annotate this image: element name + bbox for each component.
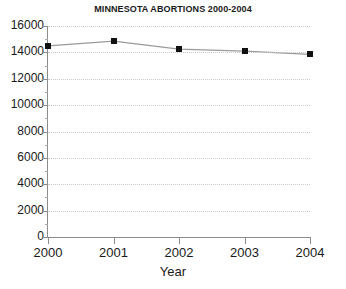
data-point-marker [242, 48, 248, 54]
gridline [48, 52, 310, 53]
gridline [48, 211, 310, 212]
y-axis-tick-label: 8000 [0, 124, 44, 138]
gridline [48, 26, 310, 27]
y-axis-minor-tick [45, 145, 48, 146]
x-axis-tick-label: 2000 [18, 245, 78, 260]
x-axis-tick [114, 238, 115, 244]
x-axis-tick-label: 2003 [215, 245, 275, 260]
y-axis-tick-labels: 0200040006000800010000120001400016000 [0, 26, 44, 237]
gridline [48, 79, 310, 80]
y-axis-tick [42, 79, 48, 80]
x-axis-tick-label: 2004 [280, 245, 340, 260]
gridline [48, 158, 310, 159]
plot-area [48, 26, 310, 237]
y-axis-tick [42, 132, 48, 133]
y-axis-minor-tick [45, 92, 48, 93]
x-axis-tick [245, 238, 246, 244]
y-axis-tick-label: 2000 [0, 203, 44, 217]
y-axis-minor-tick [45, 39, 48, 40]
y-axis-tick-label: 6000 [0, 150, 44, 164]
y-axis-tick-label: 14000 [0, 44, 44, 58]
y-axis-tick [42, 158, 48, 159]
x-axis-tick [179, 238, 180, 244]
y-axis-tick [42, 211, 48, 212]
x-axis-tick [48, 238, 49, 244]
gridline [48, 132, 310, 133]
y-axis-tick-label: 10000 [0, 97, 44, 111]
x-axis-tick-labels: 20002001200220032004 [48, 245, 310, 263]
y-axis-minor-tick [45, 171, 48, 172]
y-axis-tick-label: 0 [0, 229, 44, 243]
y-axis-minor-tick [45, 224, 48, 225]
chart-container: MINNESOTA ABORTIONS 2000-2004 0200040006… [0, 0, 346, 289]
chart-title: MINNESOTA ABORTIONS 2000-2004 [0, 4, 346, 14]
y-axis-tick-label: 4000 [0, 176, 44, 190]
y-axis-tick [42, 184, 48, 185]
y-axis-tick-label: 16000 [0, 18, 44, 32]
x-axis-title: Year [0, 264, 346, 279]
gridline [48, 105, 310, 106]
y-axis-minor-tick [45, 118, 48, 119]
data-point-marker [111, 38, 117, 44]
data-point-marker [176, 46, 182, 52]
y-axis-tick [42, 52, 48, 53]
x-axis-tick-label: 2002 [149, 245, 209, 260]
y-axis-minor-tick [45, 197, 48, 198]
x-axis-tick [310, 238, 311, 244]
data-point-marker [307, 51, 313, 57]
x-axis-ticks [48, 238, 310, 244]
y-axis-tick [42, 26, 48, 27]
y-axis-tick-label: 12000 [0, 71, 44, 85]
y-axis-tick [42, 105, 48, 106]
gridline [48, 184, 310, 185]
x-axis-tick-label: 2001 [84, 245, 144, 260]
y-axis-minor-tick [45, 66, 48, 67]
data-point-marker [45, 43, 51, 49]
